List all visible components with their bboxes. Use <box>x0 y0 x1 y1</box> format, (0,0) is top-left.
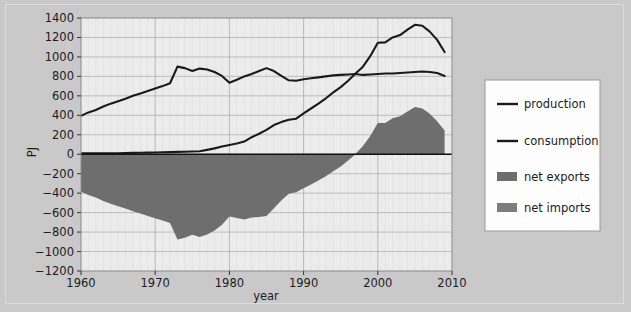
y-axis-label: PJ <box>25 147 39 157</box>
x-tick-label: 1970 <box>141 276 170 290</box>
legend-label-consumption: consumption <box>524 134 598 148</box>
legend-label-net-exports: net exports <box>524 170 590 184</box>
legend-marker-swatch-net-exports <box>497 172 517 181</box>
chart-canvas: −1200−1000−800−600−400−20002004006008001… <box>0 0 631 312</box>
x-tick-label: 2000 <box>363 276 392 290</box>
y-axis-ticks: −1200−1000−800−600−400−20002004006008001… <box>35 11 81 278</box>
legend-label-net-imports: net imports <box>524 201 591 215</box>
y-tick-label: −200 <box>42 167 74 181</box>
x-axis-ticks: 196019701980199020002010 <box>66 271 466 290</box>
y-tick-label: 1000 <box>45 50 74 64</box>
y-tick-label: 1400 <box>45 11 74 25</box>
y-tick-label: 1200 <box>45 30 74 44</box>
x-tick-label: 1980 <box>215 276 244 290</box>
chart-legend[interactable]: production consumption net exports net i… <box>485 80 600 231</box>
y-tick-label: 800 <box>52 69 74 83</box>
legend-label-production: production <box>524 97 586 111</box>
legend-marker-swatch-net-imports <box>497 203 517 212</box>
x-tick-label: 1960 <box>66 276 95 290</box>
y-tick-label: 200 <box>52 128 74 142</box>
y-tick-label: −800 <box>42 225 74 239</box>
y-tick-label: 400 <box>52 108 74 122</box>
y-tick-label: −1000 <box>35 245 74 259</box>
y-tick-label: 600 <box>52 89 74 103</box>
x-tick-label: 2010 <box>437 276 466 290</box>
figure-root: −1200−1000−800−600−400−20002004006008001… <box>0 0 631 312</box>
y-tick-label: 0 <box>67 147 74 161</box>
y-tick-label: −400 <box>42 186 74 200</box>
x-axis-label: year <box>253 289 279 303</box>
x-tick-label: 1990 <box>289 276 318 290</box>
y-tick-label: −600 <box>42 206 74 220</box>
